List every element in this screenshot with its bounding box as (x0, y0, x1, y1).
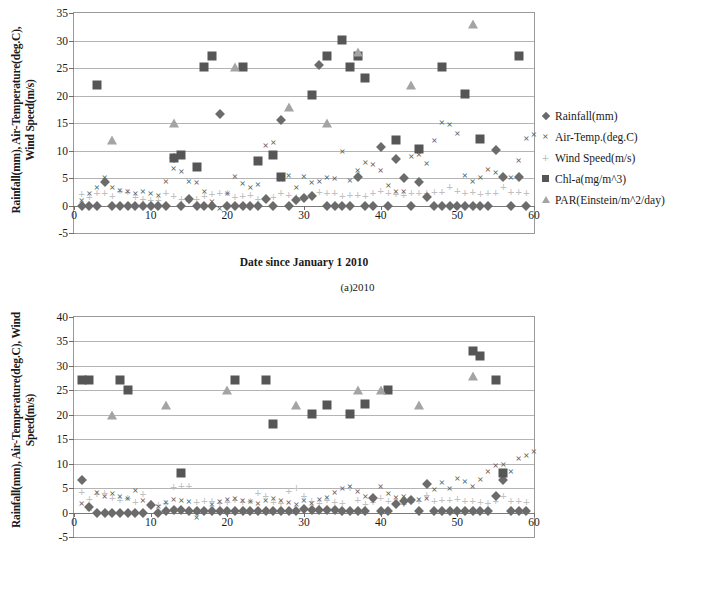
legend-item-rainfall[interactable]: Rainfall(mm) (538, 105, 713, 126)
x-tick-mark (74, 206, 75, 210)
x-tick-label: 0 (71, 516, 77, 528)
data-point-cross: × (94, 181, 100, 192)
x-tick-mark (381, 206, 382, 210)
data-point-square (177, 151, 186, 160)
y-tick-label: 5 (62, 172, 68, 184)
data-point-square (93, 80, 102, 89)
plus-marker-icon: + (538, 152, 553, 164)
data-point-plus: + (477, 188, 484, 200)
data-point-square (307, 90, 316, 99)
y-tick-mark (69, 96, 74, 97)
x-tick-label: 30 (298, 209, 310, 221)
data-point-cross: × (516, 453, 522, 464)
data-point-plus: + (469, 186, 476, 198)
data-point-plus: + (370, 187, 377, 199)
data-point-diamond (391, 154, 401, 164)
gridline (74, 390, 534, 391)
data-point-square (208, 52, 217, 61)
data-point-plus: + (278, 187, 285, 199)
data-point-cross: × (270, 137, 276, 148)
data-point-cross: × (163, 175, 169, 186)
legend-item-air-temp[interactable]: ×Air-Temp.(deg.C) (538, 126, 713, 147)
data-point-square (307, 410, 316, 419)
data-point-cross: × (309, 176, 315, 187)
data-point-triangle (353, 386, 363, 395)
y-tick-mark (69, 178, 74, 179)
data-point-cross: × (516, 154, 522, 165)
y-tick-label: 10 (57, 145, 69, 157)
data-point-triangle (414, 401, 424, 410)
data-point-plus: + (354, 189, 361, 201)
x-tick-label: 60 (528, 516, 540, 528)
y-tick-label: -5 (58, 227, 68, 239)
figure-2010: Rainfall(mm), Air-Temperature(deg.C), Wi… (0, 0, 715, 305)
data-point-cross: × (94, 486, 100, 497)
data-point-cross: × (454, 128, 460, 139)
data-point-cross: × (477, 171, 483, 182)
data-point-plus: + (454, 185, 461, 197)
data-point-plus: + (446, 181, 453, 193)
y-tick-label: 25 (57, 384, 69, 396)
data-point-cross: × (454, 473, 460, 484)
data-point-diamond (491, 145, 501, 155)
data-point-triangle (161, 401, 171, 410)
data-point-cross: × (140, 185, 146, 196)
data-point-cross: × (485, 465, 491, 476)
gridline (74, 151, 534, 152)
data-point-square (491, 376, 500, 385)
data-point-square (338, 35, 347, 44)
gridline (74, 68, 534, 69)
data-point-plus: + (316, 186, 323, 198)
y-tick-label: 15 (57, 117, 69, 129)
data-point-cross: × (347, 481, 353, 492)
data-point-plus: + (132, 496, 139, 508)
y-tick-label: 5 (62, 482, 68, 494)
data-point-plus: + (331, 187, 338, 199)
data-point-square (254, 156, 263, 165)
data-point-cross: × (86, 188, 92, 199)
data-point-square (269, 151, 278, 160)
data-point-cross: × (339, 146, 345, 157)
data-point-square (346, 63, 355, 72)
data-point-plus: + (454, 493, 461, 505)
y-tick-mark (69, 68, 74, 69)
data-point-cross: × (240, 494, 246, 505)
figure-2011: Rainfall(mm), Air-Temperature(deg.C), Wi… (0, 300, 715, 610)
data-point-triangle (230, 63, 240, 72)
legend-item-wind-speed[interactable]: +Wind Speed(m/s) (538, 147, 713, 168)
data-point-triangle (353, 47, 363, 56)
gridline (74, 41, 534, 42)
square-marker-icon (538, 175, 553, 182)
x-tick-label: 20 (222, 516, 234, 528)
data-point-cross: × (462, 169, 468, 180)
data-point-cross: × (332, 487, 338, 498)
y-axis-label-line1: Rainfall(mm), Air-Temperature(deg.C), (10, 27, 22, 214)
y-tick-mark (69, 415, 74, 416)
data-point-plus: + (216, 187, 223, 199)
data-point-plus: + (285, 485, 292, 497)
x-tick-label: 40 (375, 209, 387, 221)
data-point-cross: × (232, 171, 238, 182)
data-point-plus: + (508, 186, 515, 198)
data-point-diamond (399, 173, 409, 183)
y-tick-mark (69, 464, 74, 465)
data-point-cross: × (447, 482, 453, 493)
legend-item-chl-a[interactable]: Chl-a(mg/m^3) (538, 168, 713, 189)
data-point-cross: × (186, 175, 192, 186)
data-point-plus: + (446, 494, 453, 506)
data-point-cross: × (102, 490, 108, 501)
y-tick-label: 40 (57, 311, 69, 323)
data-point-cross: × (439, 477, 445, 488)
y-tick-label: 30 (57, 35, 69, 47)
y-tick-label: 10 (57, 458, 69, 470)
data-point-cross: × (255, 178, 261, 189)
data-point-cross: × (401, 186, 407, 197)
data-point-plus: + (163, 187, 170, 199)
data-point-cross: × (125, 186, 131, 197)
legend-item-par[interactable]: PAR(Einstein/m^2/day) (538, 189, 713, 210)
data-point-cross: × (316, 494, 322, 505)
y-tick-mark (69, 13, 74, 14)
data-point-diamond (353, 172, 363, 182)
data-point-cross: × (155, 190, 161, 201)
data-point-cross: × (393, 185, 399, 196)
